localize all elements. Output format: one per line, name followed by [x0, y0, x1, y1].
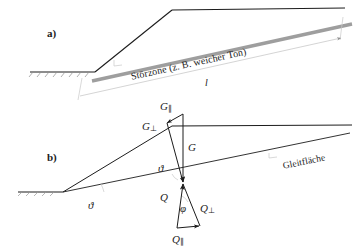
stoerzone-leader-line	[114, 65, 122, 66]
label-G-parallel-subscript: ∥	[168, 104, 172, 113]
ground-hatching-b	[18, 192, 54, 196]
label-G-parallel: G∥	[160, 97, 172, 113]
label-phi: φ	[180, 203, 186, 214]
label-G-perpendicular: G⊥	[142, 117, 157, 133]
label-G: G	[188, 142, 196, 153]
dimension-extension-left-a	[78, 78, 82, 100]
label-Q-perpendicular-subscript: ⊥	[208, 206, 215, 215]
label-G-perpendicular-subscript: ⊥	[150, 124, 157, 133]
gleitflaeche-leader-line	[269, 157, 277, 158]
vector-Q-parallel	[177, 226, 199, 228]
ground-hatching-a	[29, 72, 89, 77]
vector-G-parallel	[167, 114, 183, 123]
embankment-crest-a	[172, 8, 345, 10]
panel-a-geometry	[29, 8, 352, 100]
dimension-extension-right-a	[340, 17, 343, 40]
label-Q-parallel-symbol: Q	[172, 233, 180, 245]
label-Q-parallel-subscript: ∥	[180, 237, 184, 246]
dimension-l-label: l	[205, 78, 208, 88]
label-Q-perpendicular-symbol: Q	[200, 202, 208, 214]
panel-b-tag: b)	[47, 152, 57, 163]
vector-G-perpendicular	[167, 123, 183, 182]
label-Q: Q	[160, 192, 168, 203]
label-Q-perpendicular: Q⊥	[200, 199, 215, 215]
angle-arc-theta-toe	[101, 184, 104, 192]
embankment-left-face-b	[63, 126, 172, 192]
angle-arc-theta-wedge	[172, 174, 178, 180]
label-G-parallel-symbol: G	[160, 100, 168, 112]
embankment-crest-b	[172, 125, 352, 126]
embankment-left-face-a	[95, 10, 172, 72]
label-theta-slope: ϑ	[88, 200, 93, 211]
dimension-line-l	[80, 38, 341, 96]
label-Q-parallel: Q∥	[172, 230, 184, 246]
panel-a-tag: a)	[47, 28, 56, 39]
geotechnical-slope-figure: a) Störzone (z. B. weicher Ton) l b) Gle…	[0, 0, 360, 246]
label-theta-wedge: ϑ	[158, 163, 163, 174]
label-G-perpendicular-symbol: G	[142, 120, 150, 132]
